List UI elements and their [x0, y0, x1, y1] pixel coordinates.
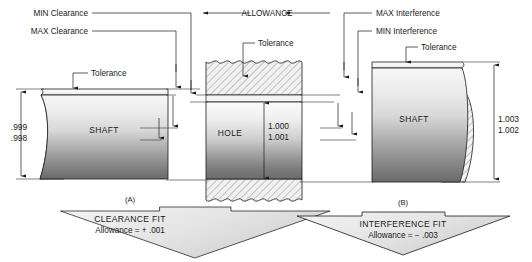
allowance-label: ALLOWANCE [241, 9, 293, 18]
min-clearance-label: MIN Clearance [33, 9, 88, 18]
right-shaft-body [372, 68, 468, 182]
hole-upper-wall [206, 61, 302, 95]
hole-dim-upper: 1.000 [268, 121, 289, 131]
interference-fit-subtitle: Allowance = − .003 [368, 231, 438, 240]
fit-tolerance-diagram: SHAFT .999 .998 Tolerance HOLE [0, 0, 532, 262]
max-clearance-label: MAX Clearance [31, 27, 89, 36]
left-shaft-body [40, 95, 168, 179]
right-shaft-group: SHAFT [372, 62, 474, 182]
hole-lower-wall [206, 179, 302, 201]
hole-label: HOLE [218, 128, 242, 138]
left-dim-upper: .999 [11, 122, 28, 132]
tolerance-label-center: Tolerance [258, 39, 294, 48]
right-dim-upper: 1.003 [498, 114, 519, 124]
hole-tolerance-band [206, 95, 302, 102]
diagram-canvas: SHAFT .999 .998 Tolerance HOLE [0, 0, 532, 262]
left-shaft-label: SHAFT [89, 125, 118, 135]
left-shaft-group: SHAFT [40, 89, 168, 179]
clearance-fit-title: CLEARANCE FIT [94, 214, 166, 224]
clearance-fit-subtitle: Allowance = + .001 [95, 226, 165, 235]
left-dimension-group: .999 .998 [11, 89, 44, 179]
interference-fit-title: INTERFERENCE FIT [360, 219, 447, 229]
left-tolerance-leader: Tolerance [73, 69, 127, 88]
right-tolerance-arrows [320, 103, 356, 140]
clearance-fit-banner: CLEARANCE FIT Allowance = + .001 [60, 207, 330, 258]
hole-dim-lower: 1.001 [268, 132, 289, 142]
left-shaft-tolerance-band [41, 89, 168, 95]
right-tolerance-leader: Tolerance [406, 43, 457, 62]
max-interference-label: MAX Interference [376, 9, 440, 18]
interference-fit-banner: INTERFERENCE FIT Allowance = − .003 [297, 212, 510, 255]
allowance-group: ALLOWANCE [203, 9, 330, 18]
left-dim-lower: .998 [11, 133, 28, 143]
right-dim-lower: 1.002 [498, 125, 519, 135]
tolerance-label-left: Tolerance [91, 69, 127, 78]
right-shaft-label: SHAFT [399, 114, 428, 124]
figure-caption-a: (A) [125, 195, 136, 204]
min-interference-label: MIN Interference [376, 27, 437, 36]
clearance-leader-stack: MIN Clearance MAX Clearance [31, 9, 191, 93]
center-hole-group: HOLE 1.000 1.001 [206, 61, 302, 201]
figure-caption-b: (B) [398, 198, 409, 207]
right-shaft-tolerance-band [372, 62, 464, 68]
tolerance-label-right: Tolerance [421, 43, 457, 52]
